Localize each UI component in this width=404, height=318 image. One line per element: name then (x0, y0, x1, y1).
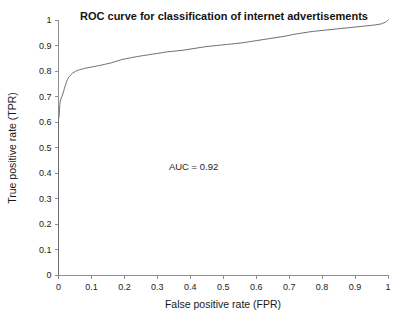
x-tick-label: 0 (56, 282, 61, 292)
roc-curve-line (59, 20, 389, 275)
y-tick-label: 0.9 (39, 41, 52, 51)
x-tick-label: 0.2 (118, 282, 131, 292)
y-tick-label: 0.7 (39, 92, 52, 102)
y-axis-title: True positive rate (TPR) (6, 92, 18, 204)
y-axis-ticks (55, 20, 59, 275)
x-tick-label: 0.7 (283, 282, 296, 292)
x-tick-label: 0.4 (184, 282, 197, 292)
y-tick-label: 0.5 (39, 143, 52, 153)
x-axis-title: False positive rate (FPR) (165, 298, 281, 310)
y-axis: 00.10.20.30.40.50.60.70.80.91 (39, 15, 59, 280)
y-tick-label: 0.2 (39, 219, 52, 229)
y-tick-label: 0.1 (39, 245, 52, 255)
roc-chart-svg: ROC curve for classification of internet… (0, 0, 404, 318)
x-tick-label: 0.3 (151, 282, 164, 292)
roc-chart-page: ROC curve for classification of internet… (0, 0, 404, 318)
y-tick-label: 0.4 (39, 168, 52, 178)
chart-annotations: AUC = 0.92 (169, 161, 218, 172)
chart-title: ROC curve for classification of internet… (80, 10, 368, 22)
y-tick-label: 0.6 (39, 117, 52, 127)
y-tick-label: 1 (46, 15, 51, 25)
x-tick-label: 0.8 (316, 282, 329, 292)
x-tick-label: 1 (385, 282, 390, 292)
y-tick-label: 0.8 (39, 66, 52, 76)
x-tick-label: 0.5 (217, 282, 230, 292)
auc-annotation: AUC = 0.92 (169, 161, 218, 172)
y-tick-label: 0 (46, 270, 51, 280)
x-tick-label: 0.6 (250, 282, 263, 292)
y-tick-label: 0.3 (39, 194, 52, 204)
x-axis-tick-labels: 00.10.20.30.40.50.60.70.80.91 (56, 282, 391, 292)
x-axis: 00.10.20.30.40.50.60.70.80.91 (56, 275, 391, 292)
x-tick-label: 0.9 (349, 282, 362, 292)
y-axis-tick-labels: 00.10.20.30.40.50.60.70.80.91 (39, 15, 52, 280)
x-tick-label: 0.1 (85, 282, 98, 292)
